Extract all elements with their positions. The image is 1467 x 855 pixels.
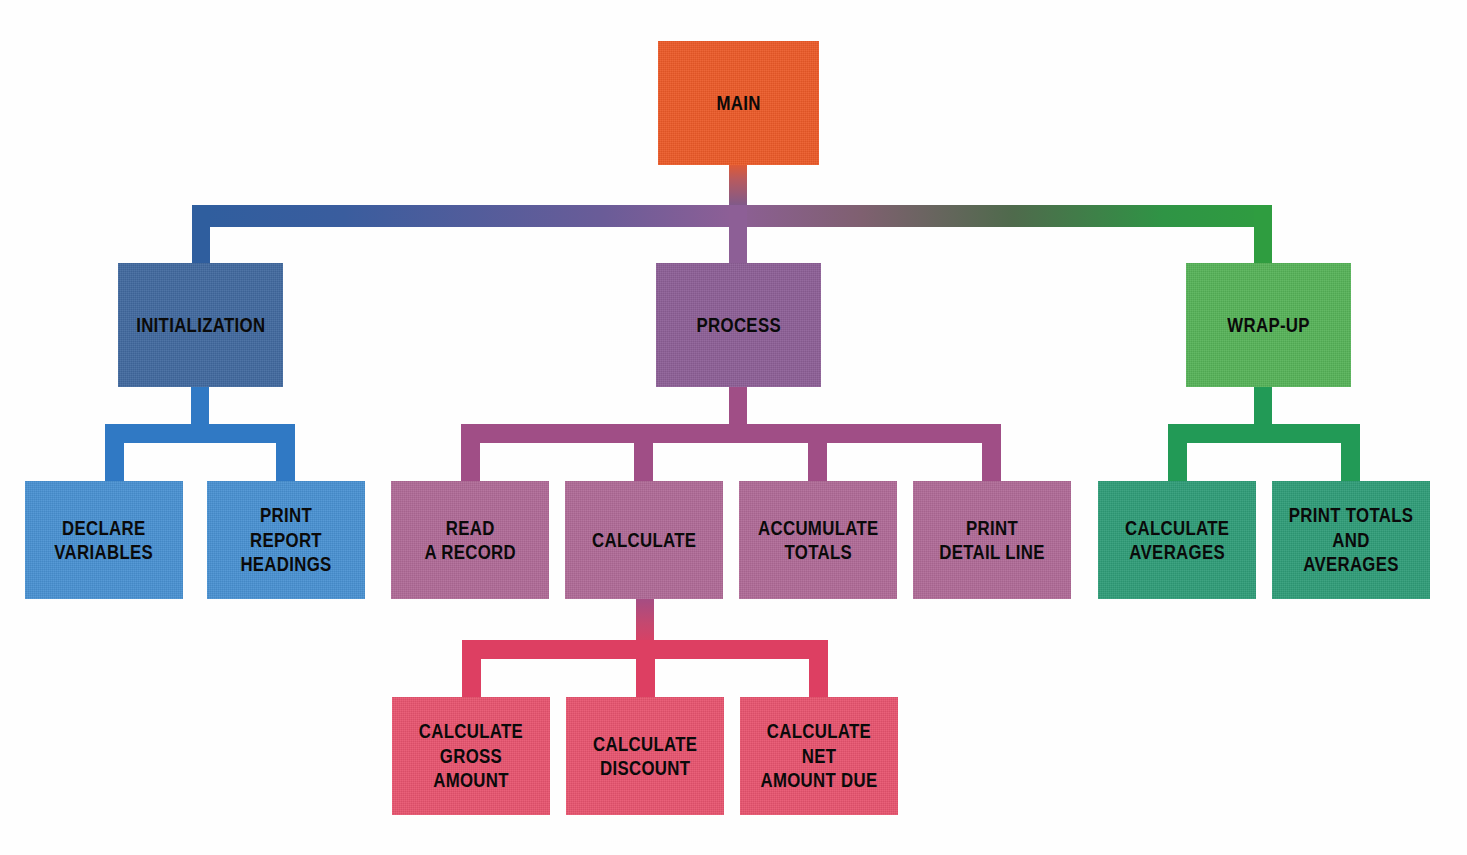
diagram-canvas: MAIN INITIALIZATION PROCESS WRAP-UP DECL… — [0, 0, 1467, 855]
node-calculate-averages-label: CALCULATE AVERAGES — [1125, 516, 1229, 565]
connector-read-a-record-leg — [461, 424, 480, 484]
node-declare-variables[interactable]: DECLARE VARIABLES — [25, 481, 183, 599]
connector-print-detail-line-leg — [982, 424, 1001, 484]
connector-initialization-leg — [192, 205, 210, 265]
node-wrapup[interactable]: WRAP-UP — [1186, 263, 1351, 387]
node-accumulate-totals-label: ACCUMULATE TOTALS — [758, 516, 878, 565]
node-accumulate-totals[interactable]: ACCUMULATE TOTALS — [739, 481, 897, 599]
node-wrapup-label: WRAP-UP — [1227, 313, 1310, 337]
connector-initialization-bus — [105, 424, 295, 443]
node-calculate-discount-label: CALCULATE DISCOUNT — [593, 732, 697, 781]
connector-process-bus — [461, 424, 1001, 443]
connector-print-totals-and-averages-leg — [1341, 424, 1360, 484]
node-calculate[interactable]: CALCULATE — [565, 481, 723, 599]
node-calculate-averages[interactable]: CALCULATE AVERAGES — [1098, 481, 1256, 599]
connector-calculate-gross-amount-leg — [462, 640, 481, 700]
node-calculate-net-amount-due[interactable]: CALCULATE NET AMOUNT DUE — [740, 697, 898, 815]
node-print-detail-line-label: PRINT DETAIL LINE — [939, 516, 1045, 565]
connector-calculate-net-amount-due-leg — [809, 640, 828, 700]
node-print-totals-and-averages[interactable]: PRINT TOTALS AND AVERAGES — [1272, 481, 1430, 599]
connector-wrapup-stem — [1254, 380, 1272, 430]
node-process-label: PROCESS — [696, 313, 780, 337]
connector-calculate-leg — [634, 424, 653, 484]
node-calculate-net-amount-due-label: CALCULATE NET AMOUNT DUE — [756, 719, 882, 792]
node-read-a-record[interactable]: READ A RECORD — [391, 481, 549, 599]
node-process[interactable]: PROCESS — [656, 263, 821, 387]
connector-wrapup-leg — [1254, 205, 1272, 265]
connector-calculate-averages-leg — [1168, 424, 1187, 484]
connector-main-stem — [729, 160, 747, 208]
node-calculate-label: CALCULATE — [592, 528, 696, 552]
connector-process-leg — [729, 205, 747, 265]
connector-print-report-headings-leg — [276, 424, 295, 484]
connector-initialization-stem — [191, 380, 209, 430]
connector-calculate-discount-leg — [636, 640, 655, 700]
connector-wrapup-bus — [1168, 424, 1360, 443]
node-calculate-gross-amount-label: CALCULATE GROSS AMOUNT — [408, 719, 534, 792]
node-calculate-gross-amount[interactable]: CALCULATE GROSS AMOUNT — [392, 697, 550, 815]
connector-process-stem — [729, 380, 747, 430]
node-main[interactable]: MAIN — [658, 41, 819, 165]
node-declare-variables-label: DECLARE VARIABLES — [55, 516, 154, 565]
node-print-report-headings[interactable]: PRINT REPORT HEADINGS — [207, 481, 365, 599]
node-print-report-headings-label: PRINT REPORT HEADINGS — [223, 503, 349, 576]
node-main-label: MAIN — [716, 91, 760, 115]
node-print-detail-line[interactable]: PRINT DETAIL LINE — [913, 481, 1071, 599]
connector-accumulate-totals-leg — [808, 424, 827, 484]
node-initialization-label: INITIALIZATION — [136, 313, 265, 337]
node-read-a-record-label: READ A RECORD — [424, 516, 516, 565]
node-calculate-discount[interactable]: CALCULATE DISCOUNT — [566, 697, 724, 815]
connector-declare-variables-leg — [105, 424, 124, 484]
node-initialization[interactable]: INITIALIZATION — [118, 263, 283, 387]
node-print-totals-and-averages-label: PRINT TOTALS AND AVERAGES — [1288, 503, 1414, 576]
